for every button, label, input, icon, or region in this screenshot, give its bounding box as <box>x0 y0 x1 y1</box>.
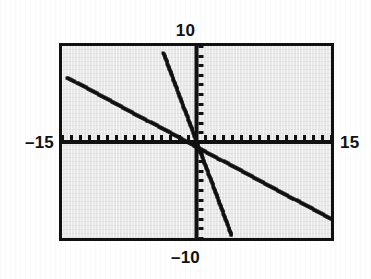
y-axis-tick <box>199 237 204 238</box>
x-axis-tick <box>160 135 163 140</box>
y-axis-tick <box>199 131 204 134</box>
x-axis-tick <box>70 135 73 140</box>
y-axis-tick <box>199 170 204 173</box>
x-axis-tick <box>249 135 252 140</box>
y-axis-tick <box>199 179 204 182</box>
y-axis-tick <box>199 112 204 115</box>
curve-pixel <box>330 218 332 221</box>
x-axis-tick <box>88 135 91 140</box>
y-axis-tick <box>199 64 204 67</box>
x-axis-tick <box>62 135 64 140</box>
x-axis-tick <box>294 135 297 140</box>
x-axis-tick <box>151 135 154 140</box>
y-axis-tick <box>199 46 204 48</box>
x-axis-tick <box>124 135 127 140</box>
y-axis-tick <box>199 208 204 211</box>
curve-pixel <box>230 234 233 237</box>
y-axis-tick <box>199 83 204 86</box>
y-axis-tick <box>199 122 204 125</box>
x-axis-tick <box>133 135 136 140</box>
x-axis-tick <box>258 135 261 140</box>
x-axis-tick <box>169 135 172 140</box>
y-axis-tick <box>199 189 204 192</box>
x-axis-tick <box>204 135 207 140</box>
y-axis-tick <box>199 74 204 77</box>
y-axis-tick <box>199 218 204 221</box>
x-axis-tick <box>321 135 324 140</box>
x-axis-tick <box>267 135 270 140</box>
x-axis-tick <box>240 135 243 140</box>
x-axis-tick <box>97 135 100 140</box>
x-axis-tick <box>142 135 145 140</box>
x-axis-tick <box>187 135 190 140</box>
x-axis-tick <box>115 135 118 140</box>
calculator-viewing-window <box>59 43 334 241</box>
x-axis-tick <box>231 135 234 140</box>
x-axis-tick <box>106 135 109 140</box>
x-axis-tick <box>330 135 331 140</box>
x-axis-tick <box>303 135 306 140</box>
y-min-label: –10 <box>0 249 371 266</box>
x-axis-tick <box>222 135 225 140</box>
plot-area <box>62 46 331 238</box>
x-axis-tick <box>213 135 216 140</box>
y-axis-tick <box>199 103 204 106</box>
x-axis-tick <box>276 135 279 140</box>
x-max-label: 15 <box>340 134 370 151</box>
x-axis-tick <box>79 135 82 140</box>
graphing-calculator-screenshot: 10 –10 –15 15 <box>0 0 371 279</box>
x-axis-tick <box>285 135 288 140</box>
y-max-label: 10 <box>0 22 371 39</box>
graph-svg <box>62 46 331 238</box>
x-min-label: –15 <box>6 134 54 151</box>
x-axis-tick <box>312 135 315 140</box>
y-axis-tick <box>199 93 204 96</box>
y-axis-tick <box>199 199 204 202</box>
y-axis-tick <box>199 227 204 230</box>
y-axis-tick <box>199 55 204 58</box>
